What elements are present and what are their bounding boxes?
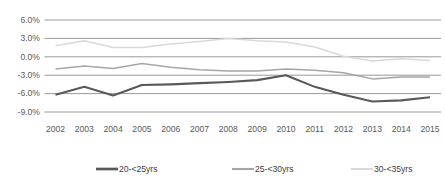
- x-tick-label: 2012: [334, 124, 353, 134]
- x-tick-label: 2006: [161, 124, 180, 134]
- y-tick-label: 0.0%: [20, 52, 40, 62]
- legend-item-1[interactable]: 25-<30yrs: [232, 164, 293, 174]
- legend-item-0[interactable]: 20-<25yrs: [96, 164, 157, 174]
- x-tick-label: 2003: [75, 124, 94, 134]
- legend-item-label: 30-<35yrs: [374, 164, 412, 174]
- legend-item-label: 25-<30yrs: [255, 164, 293, 174]
- x-tick-label: 2009: [248, 124, 267, 134]
- x-axis-tick-labels: 2002200320042005200620072008200920102011…: [46, 124, 440, 134]
- y-tick-label: -6.0%: [18, 88, 41, 98]
- y-tick-label: -3.0%: [18, 70, 41, 80]
- chart-canvas: 6.0%3.0%0.0%-3.0%-6.0%-9.0% 200220032004…: [0, 0, 445, 184]
- legend-item-2[interactable]: 30-<35yrs: [351, 164, 412, 174]
- x-tick-label: 2015: [420, 124, 439, 134]
- y-tick-label: 3.0%: [20, 33, 40, 43]
- x-tick-label: 2014: [392, 124, 411, 134]
- legend-item-label: 20-<25yrs: [119, 164, 157, 174]
- series-line-2: [56, 38, 431, 61]
- y-tick-label: -9.0%: [18, 107, 41, 117]
- gridlines: [45, 20, 442, 112]
- y-tick-label: 6.0%: [20, 15, 40, 25]
- y-axis-tick-labels: 6.0%3.0%0.0%-3.0%-6.0%-9.0%: [18, 15, 41, 117]
- x-tick-label: 2004: [104, 124, 123, 134]
- legend: 20-<25yrs25-<30yrs30-<35yrs: [96, 164, 412, 174]
- line-chart: 6.0%3.0%0.0%-3.0%-6.0%-9.0% 200220032004…: [0, 0, 445, 184]
- x-tick-label: 2005: [132, 124, 151, 134]
- x-tick-label: 2008: [219, 124, 238, 134]
- x-tick-label: 2013: [363, 124, 382, 134]
- data-series-group: [56, 38, 431, 101]
- x-tick-label: 2002: [46, 124, 65, 134]
- x-tick-label: 2011: [306, 124, 325, 134]
- series-line-1: [56, 64, 431, 79]
- x-tick-label: 2007: [190, 124, 209, 134]
- x-tick-label: 2010: [276, 124, 295, 134]
